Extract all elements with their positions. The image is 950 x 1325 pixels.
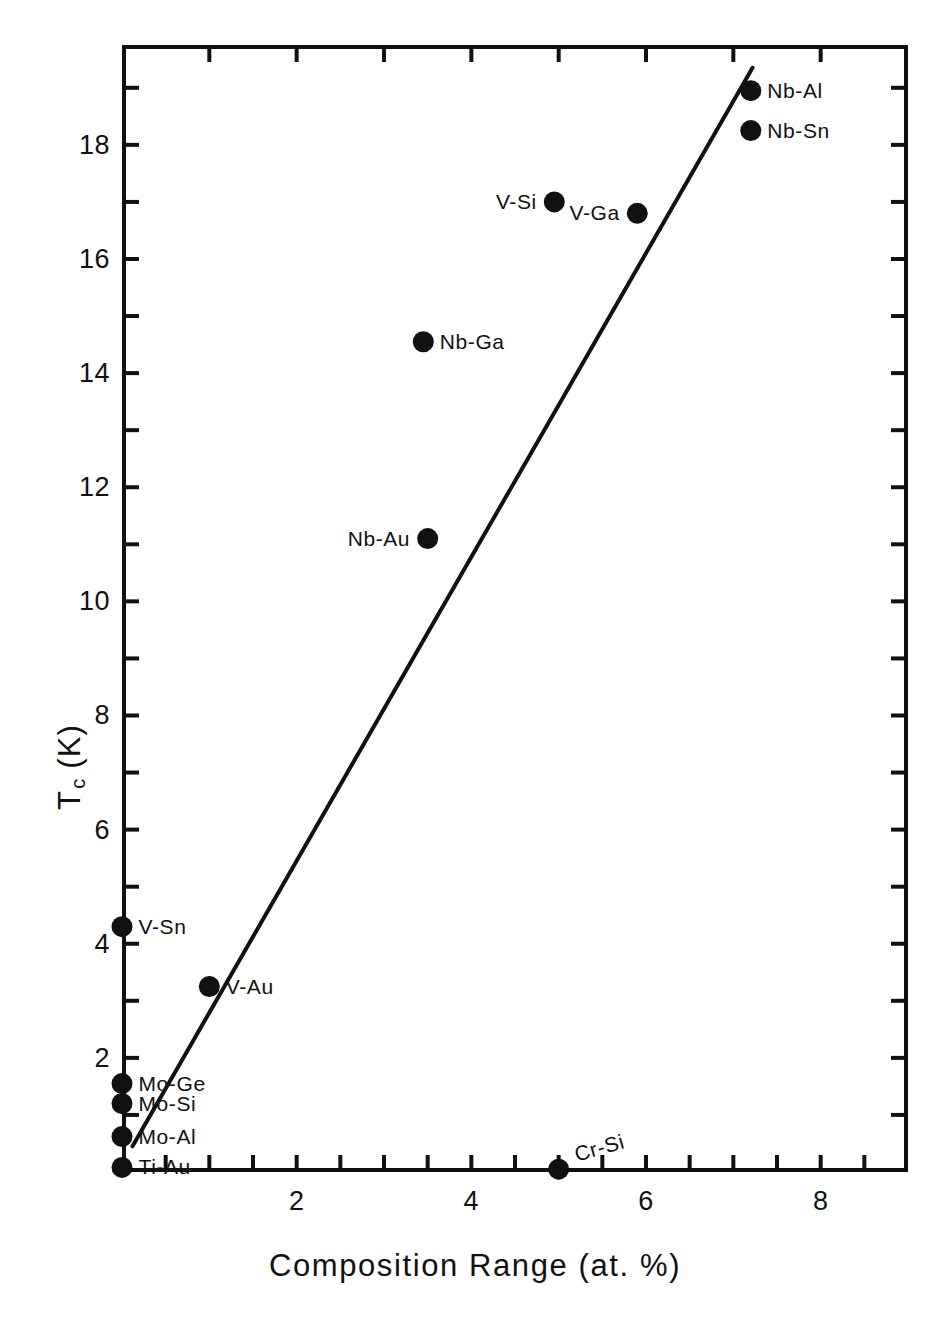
y-tick-label: 10 xyxy=(79,586,110,617)
data-point-label: V-Sn xyxy=(139,915,187,939)
y-axis-title-unit: (K) xyxy=(52,724,87,779)
data-point-label: Nb-Ga xyxy=(440,330,505,354)
x-tick-label: 8 xyxy=(813,1186,829,1217)
plot-canvas xyxy=(122,45,908,1172)
tick-marks-group xyxy=(122,45,908,1172)
data-point-marker xyxy=(112,1126,133,1147)
data-point-label: V-Si xyxy=(496,190,537,214)
data-point-label: Nb-Au xyxy=(348,527,411,551)
data-point-marker xyxy=(112,916,133,937)
data-point-marker xyxy=(544,191,565,212)
data-point-label: Nb-Sn xyxy=(767,119,830,143)
x-axis-title: Composition Range (at. %) xyxy=(0,1248,950,1284)
y-tick-label: 16 xyxy=(79,243,110,274)
data-point-label: Mo-Si xyxy=(139,1092,197,1116)
data-point-label: V-Au xyxy=(226,975,274,999)
y-tick-label: 6 xyxy=(94,814,110,845)
data-point-label: Mo-Al xyxy=(139,1125,197,1149)
y-axis-title-subscript: c xyxy=(67,778,89,789)
y-tick-label: 4 xyxy=(94,928,110,959)
data-point-marker xyxy=(740,80,761,101)
y-axis-title-main: T xyxy=(52,790,87,810)
data-point-marker xyxy=(548,1159,569,1180)
data-point-label: Ti-Au xyxy=(139,1155,191,1179)
x-tick-label: 6 xyxy=(638,1186,654,1217)
data-point-marker xyxy=(413,331,434,352)
data-point-label: V-Ga xyxy=(570,201,620,225)
data-point-marker xyxy=(112,1093,133,1114)
data-point-marker xyxy=(417,528,438,549)
y-tick-label: 8 xyxy=(94,700,110,731)
data-point-marker xyxy=(740,120,761,141)
data-point-marker xyxy=(112,1157,133,1178)
data-point-marker xyxy=(627,203,648,224)
y-tick-label: 14 xyxy=(79,358,110,389)
y-tick-label: 2 xyxy=(94,1042,110,1073)
data-point-marker xyxy=(112,1073,133,1094)
y-tick-label: 12 xyxy=(79,472,110,503)
data-point-label: Nb-Al xyxy=(767,79,823,103)
y-tick-label: 18 xyxy=(79,129,110,160)
x-tick-label: 2 xyxy=(289,1186,305,1217)
figure-scatter-tc-vs-composition-range: 24681012141618 2468 Nb-AlNb-SnV-SiV-GaNb… xyxy=(0,0,950,1325)
x-tick-label: 4 xyxy=(464,1186,480,1217)
y-axis-title: Tc (K) xyxy=(52,766,88,810)
data-point-marker xyxy=(199,976,220,997)
